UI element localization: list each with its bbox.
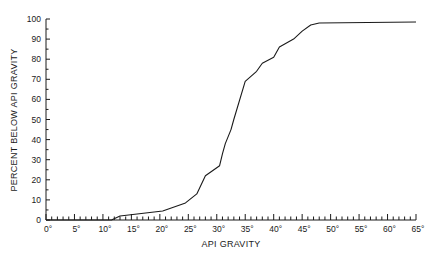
x-tick-label: 65° xyxy=(412,224,425,234)
x-tick-label: 20° xyxy=(155,224,168,234)
y-tick-label: 30 xyxy=(32,155,42,165)
y-tick-label: 0 xyxy=(36,215,41,225)
y-axis-title: PERCENT BELOW API GRAVITY xyxy=(9,48,19,191)
x-tick-label: 10° xyxy=(98,224,111,234)
x-tick-label: 35° xyxy=(241,224,254,234)
x-tick-label: 5° xyxy=(72,224,80,234)
x-tick-label: 40° xyxy=(269,224,282,234)
y-tick-label: 100 xyxy=(27,14,41,24)
y-tick-label: 20 xyxy=(32,175,42,185)
x-tick-label: 60° xyxy=(383,224,396,234)
x-tick-label: 55° xyxy=(355,224,368,234)
y-tick-label: 90 xyxy=(32,34,42,44)
x-tick-label: 50° xyxy=(326,224,339,234)
y-tick-label: 60 xyxy=(32,94,42,104)
y-tick-label: 50 xyxy=(32,115,42,125)
x-tick-label: 30° xyxy=(212,224,225,234)
x-tick-label: 25° xyxy=(184,224,197,234)
x-tick-label: 0° xyxy=(44,224,52,234)
x-tick-label: 15° xyxy=(127,224,140,234)
y-tick-label: 80 xyxy=(32,54,42,64)
x-axis: 0°5°10°15°20°25°30°35°40°45°50°55°60°65° xyxy=(44,214,425,234)
y-tick-label: 40 xyxy=(32,135,42,145)
y-tick-label: 10 xyxy=(32,195,42,205)
chart: 0102030405060708090100 0°5°10°15°20°25°3… xyxy=(0,0,437,261)
y-tick-label: 70 xyxy=(32,74,42,84)
data-line xyxy=(46,22,416,220)
x-axis-title: API GRAVITY xyxy=(201,239,260,249)
x-tick-label: 45° xyxy=(298,224,311,234)
plot-area xyxy=(46,22,416,220)
y-axis: 0102030405060708090100 xyxy=(27,14,50,225)
